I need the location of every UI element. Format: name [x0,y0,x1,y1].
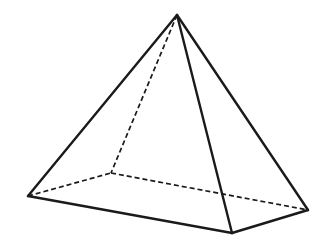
pyramid-figure [0,0,329,244]
pyramid-drawing [0,0,329,244]
